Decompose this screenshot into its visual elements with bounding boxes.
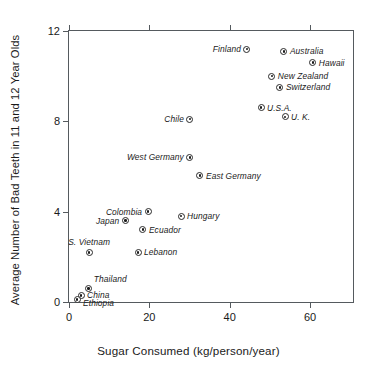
x-tick-label: 60 bbox=[304, 311, 316, 323]
data-point-marker[interactable] bbox=[243, 46, 250, 53]
data-point-label: West Germany bbox=[127, 152, 184, 162]
data-point-marker[interactable] bbox=[309, 59, 316, 66]
data-point-label: Chile bbox=[164, 114, 184, 124]
y-tick-label: 12 bbox=[48, 25, 60, 37]
data-point-label: Finland bbox=[213, 44, 241, 54]
data-point-marker[interactable] bbox=[276, 84, 283, 91]
data-point-marker[interactable] bbox=[186, 154, 193, 161]
data-point-marker[interactable] bbox=[145, 208, 152, 215]
x-tick-mark bbox=[69, 302, 70, 308]
data-point-label: Ecuador bbox=[149, 225, 181, 235]
y-tick-mark bbox=[63, 31, 69, 32]
data-point-marker[interactable] bbox=[196, 172, 203, 179]
data-point-label: Hungary bbox=[187, 211, 219, 221]
y-tick-label: 8 bbox=[54, 115, 60, 127]
data-point-label: Lebanon bbox=[144, 247, 177, 257]
data-point-marker[interactable] bbox=[258, 104, 265, 111]
data-point-label: New Zealand bbox=[278, 71, 328, 81]
data-point-label: Australia bbox=[290, 46, 323, 56]
data-point-label: Switzerland bbox=[286, 82, 330, 92]
data-point-marker[interactable] bbox=[86, 249, 93, 256]
data-point-label: East Germany bbox=[206, 171, 261, 181]
y-tick-label: 0 bbox=[54, 296, 60, 308]
scatter-plot-figure: Average Number of Bad Teeth in 11 and 12… bbox=[0, 0, 377, 374]
data-point-marker[interactable] bbox=[280, 48, 287, 55]
x-tick-mark-top bbox=[310, 25, 311, 31]
data-point-label: Ethiopia bbox=[83, 298, 114, 308]
x-tick-mark-top bbox=[149, 25, 150, 31]
y-tick-label: 4 bbox=[54, 206, 60, 218]
data-point-marker[interactable] bbox=[282, 113, 289, 120]
x-tick-label: 40 bbox=[224, 311, 236, 323]
y-tick-mark bbox=[63, 121, 69, 122]
data-point-marker[interactable] bbox=[139, 226, 146, 233]
x-tick-label: 20 bbox=[143, 311, 155, 323]
data-point-label: U.S.A. bbox=[267, 103, 292, 113]
y-axis-title: Average Number of Bad Teeth in 11 and 12… bbox=[4, 10, 26, 330]
data-point-label: U. K. bbox=[291, 112, 310, 122]
x-tick-mark bbox=[230, 302, 231, 308]
x-tick-mark bbox=[310, 302, 311, 308]
x-tick-mark bbox=[149, 302, 150, 308]
plot-area: 04812 0204060 FinlandAustraliaHawaiiNew … bbox=[68, 30, 354, 303]
data-point-label: Japan bbox=[96, 216, 119, 226]
x-tick-label: 0 bbox=[66, 311, 72, 323]
data-point-marker[interactable] bbox=[74, 296, 81, 303]
data-point-marker[interactable] bbox=[122, 217, 129, 224]
data-point-marker[interactable] bbox=[135, 249, 142, 256]
data-point-label: Hawaii bbox=[319, 58, 345, 68]
x-tick-mark-top bbox=[69, 25, 70, 31]
data-point-label: Thailand bbox=[94, 274, 127, 284]
data-point-label: S. Vietnam bbox=[68, 237, 110, 247]
data-point-marker[interactable] bbox=[178, 213, 185, 220]
y-tick-mark bbox=[63, 212, 69, 213]
x-axis-title: Sugar Consumed (kg/person/year) bbox=[0, 344, 377, 357]
data-point-marker[interactable] bbox=[186, 116, 193, 123]
x-tick-mark-top bbox=[230, 25, 231, 31]
data-point-marker[interactable] bbox=[268, 73, 275, 80]
